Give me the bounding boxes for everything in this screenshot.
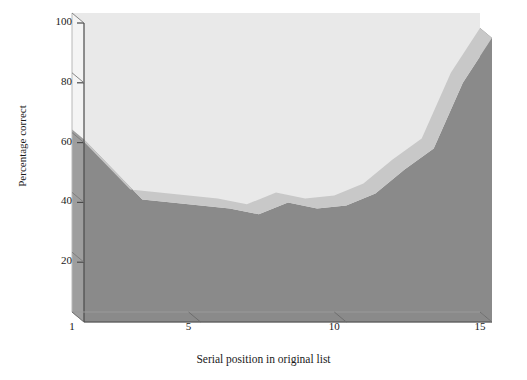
x-tick-label: 5 [174, 320, 204, 332]
x-tick-label: 15 [465, 320, 495, 332]
x-tick-label: 10 [319, 320, 349, 332]
y-tick-label: 20 [42, 254, 72, 266]
y-axis-title: Percentage correct [16, 86, 28, 206]
y-tick-label: 40 [42, 194, 72, 206]
y-tick-label: 60 [42, 135, 72, 147]
x-axis-title: Serial position in original list [0, 353, 527, 365]
y-tick-label: 80 [42, 75, 72, 87]
y-tick-label: 100 [42, 15, 72, 27]
serial-position-chart: Percentage correct Serial position in or… [0, 0, 527, 380]
x-tick-label: 1 [57, 320, 87, 332]
